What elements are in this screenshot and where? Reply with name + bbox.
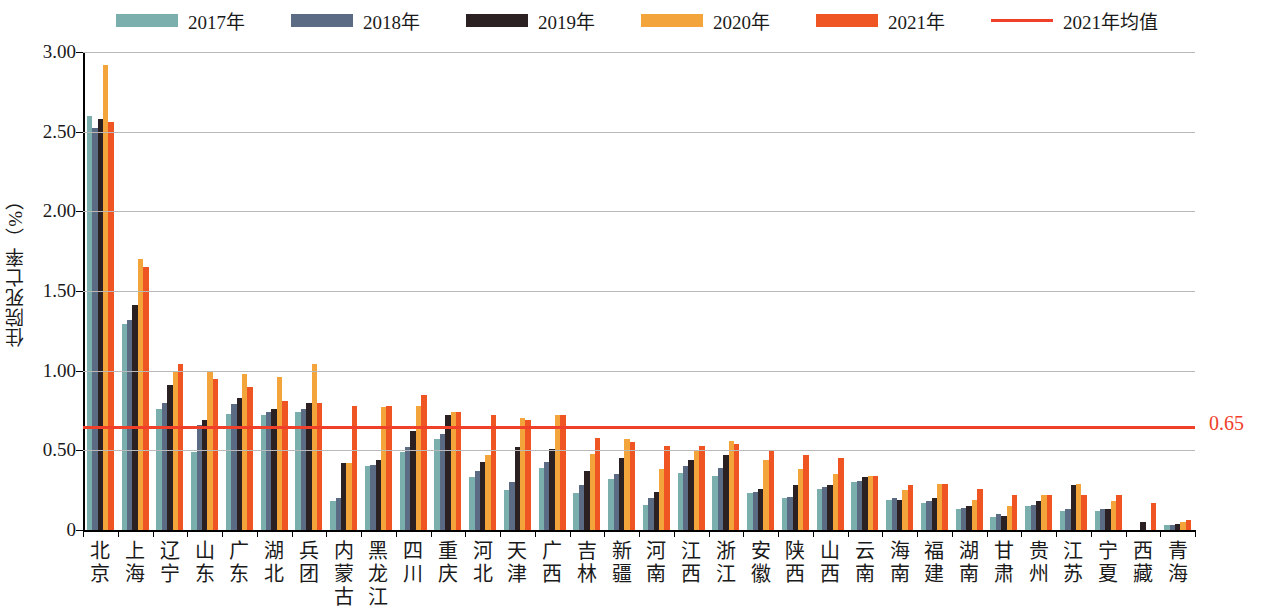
x-tick-mark [257,530,258,537]
bar [421,395,426,530]
y-tick-label: 1.00 [22,360,76,382]
y-tick-mark [76,450,83,451]
x-tick-mark [917,530,918,537]
bar [1012,495,1017,530]
y-tick-label: 1.50 [22,280,76,302]
bar [247,387,252,530]
y-gridline [83,132,1195,133]
bar [456,412,461,530]
x-tick-label: 内蒙古 [326,540,361,609]
x-tick-label: 安徽 [743,540,778,586]
x-tick-label: 四川 [396,540,431,586]
x-tick-mark [709,530,710,537]
bar [1081,495,1086,530]
x-tick-label: 广西 [535,540,570,586]
bar [803,455,808,530]
y-gridline [83,211,1195,212]
y-tick-label: 3.00 [22,41,76,63]
bar [630,442,635,530]
x-tick-label: 重庆 [431,540,466,586]
bar [734,444,739,530]
x-tick-label: 陕西 [778,540,813,586]
x-tick-mark [743,530,744,537]
x-tick-label: 湖南 [952,540,987,586]
x-tick-label: 山东 [187,540,222,586]
x-tick-label: 云南 [848,540,883,586]
x-tick-label: 贵州 [1021,540,1056,586]
plot-area: 住院死亡率（%） 00.501.001.502.002.503.00 0.65 … [0,0,1274,614]
x-tick-mark [187,530,188,537]
x-tick-label: 山西 [813,540,848,586]
x-tick-mark [83,530,84,537]
x-tick-mark [153,530,154,537]
bar [491,415,496,530]
x-tick-label: 辽宁 [153,540,188,586]
x-tick-mark [1195,530,1196,537]
bar [1186,520,1191,530]
x-tick-mark [535,530,536,537]
y-tick-label: 2.00 [22,200,76,222]
bar [942,484,947,530]
x-tick-mark [848,530,849,537]
x-tick-label: 福建 [917,540,952,586]
bar [1116,495,1121,530]
x-tick-mark [882,530,883,537]
x-tick-mark [431,530,432,537]
x-tick-mark [118,530,119,537]
y-gridline [83,371,1195,372]
bar [282,401,287,530]
bar [143,267,148,530]
x-tick-mark [361,530,362,537]
x-tick-label: 浙江 [709,540,744,586]
bar [699,446,704,530]
x-tick-label: 海南 [882,540,917,586]
x-tick-mark [987,530,988,537]
x-tick-label: 江苏 [1056,540,1091,586]
y-gridline [83,450,1195,451]
x-tick-label: 新疆 [604,540,639,586]
bar [352,406,357,530]
bar [908,485,913,530]
x-tick-label: 吉林 [570,540,605,586]
y-gridline [83,291,1195,292]
x-tick-mark [1091,530,1092,537]
x-tick-mark [222,530,223,537]
y-axis-ticks: 00.501.001.502.002.503.00 [16,0,76,614]
x-tick-mark [1021,530,1022,537]
x-tick-label: 北京 [83,540,118,586]
bar [317,403,322,530]
x-tick-mark [952,530,953,537]
x-tick-label: 西藏 [1126,540,1161,586]
x-tick-label: 黑龙江 [361,540,396,609]
bar [664,446,669,530]
y-tick-label: 0.50 [22,439,76,461]
x-tick-label: 河北 [465,540,500,586]
bar [873,476,878,530]
x-tick-mark [1056,530,1057,537]
x-tick-mark [813,530,814,537]
bar [977,489,982,530]
bar [1151,503,1156,530]
x-tick-mark [778,530,779,537]
x-tick-label: 宁夏 [1091,540,1126,586]
x-tick-mark [396,530,397,537]
bar [108,122,113,530]
bar [595,438,600,530]
x-tick-mark [1160,530,1161,537]
x-tick-mark [570,530,571,537]
x-tick-label: 江西 [674,540,709,586]
x-tick-label: 甘肃 [987,540,1022,586]
x-tick-label: 兵团 [292,540,327,586]
x-tick-mark [465,530,466,537]
x-tick-label: 湖北 [257,540,292,586]
y-tick-mark [76,132,83,133]
x-tick-label: 青海 [1160,540,1195,586]
bar [178,364,183,530]
y-tick-mark [76,530,83,531]
bar [560,415,565,530]
bar [769,450,774,530]
bar [1047,495,1052,530]
x-tick-mark [500,530,501,537]
average-reference-line [83,426,1195,429]
y-tick-label: 2.50 [22,121,76,143]
